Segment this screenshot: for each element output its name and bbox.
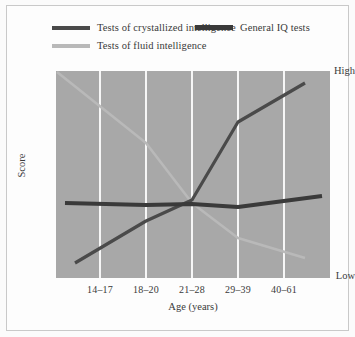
- series-line-tests-of-crystallized-intelligence: [75, 83, 305, 263]
- plot-area: [56, 71, 330, 278]
- x-axis-label: Age (years): [56, 301, 330, 312]
- series-lines-group: [57, 72, 322, 263]
- y-axis-label: Score: [16, 136, 27, 196]
- legend-label-general-iq: General IQ tests: [240, 22, 310, 33]
- legend-swatch-fluid: [52, 44, 90, 48]
- legend-swatch-crystallized: [52, 26, 90, 30]
- legend-item-fluid: Tests of fluid intelligence: [52, 40, 207, 51]
- legend-item-general-iq: General IQ tests: [195, 22, 310, 33]
- x-axis-tick-4: 40–61: [257, 284, 311, 295]
- legend-label-fluid: Tests of fluid intelligence: [97, 40, 207, 51]
- gridlines-group: [100, 71, 284, 278]
- series-line-tests-of-fluid-intelligence: [57, 72, 305, 258]
- chart-legend: Tests of crystallized intelligence Gener…: [52, 22, 347, 60]
- chart-lines-svg: [56, 71, 330, 278]
- legend-swatch-general-iq: [195, 25, 233, 30]
- chart-figure: Tests of crystallized intelligence Gener…: [0, 0, 355, 337]
